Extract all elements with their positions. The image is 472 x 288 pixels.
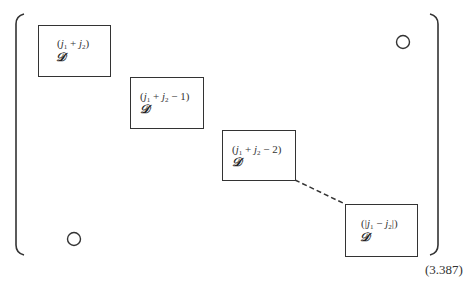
dashed-diagonal-line: [295, 180, 345, 204]
left-bracket: [16, 14, 24, 255]
block-2-symbol: 𝒟: [140, 103, 150, 115]
zero-circle-top-right: [397, 36, 410, 49]
label-text: +: [67, 37, 79, 49]
equation-number: (3.387): [425, 262, 463, 278]
right-bracket: [430, 14, 438, 255]
label-text: |): [392, 217, 398, 229]
block-1-symbol: 𝒟: [56, 51, 66, 63]
block-3-symbol: 𝒟: [232, 156, 242, 168]
label-text: −: [373, 217, 385, 229]
block-4-symbol: 𝒟: [360, 231, 370, 243]
label-text: − 1): [169, 90, 190, 102]
label-text: +: [242, 143, 254, 155]
label-text: +: [150, 90, 162, 102]
zero-circle-bottom-left: [68, 233, 81, 246]
label-text: ): [86, 37, 90, 49]
label-text: − 2): [261, 143, 282, 155]
